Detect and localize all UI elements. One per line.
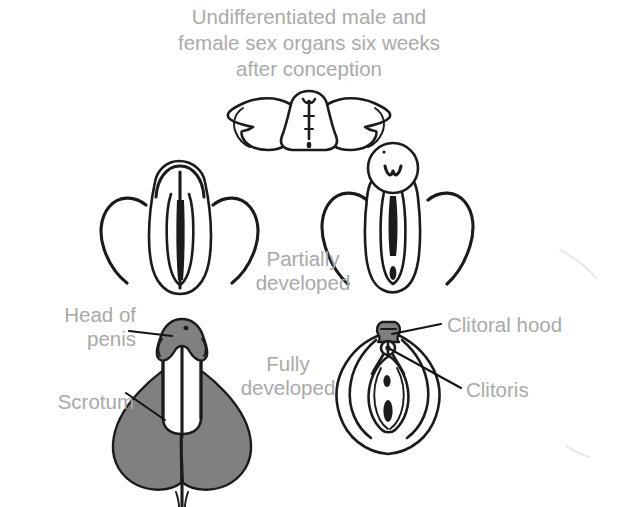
pf-glans-dot — [382, 150, 385, 153]
pm-groove-thick — [176, 200, 184, 280]
figure-partial-male — [101, 161, 258, 294]
stage-full-line-1: Fully — [228, 352, 348, 376]
label-head-of-penis: Head of penis — [24, 303, 136, 351]
urogenital-opening — [307, 142, 312, 148]
label-scrotum: Scrotum — [22, 390, 134, 414]
stage-label-partially-developed: Partially developed — [243, 247, 363, 295]
clitoral-hood — [377, 322, 400, 342]
pf-swelling-right — [428, 193, 473, 284]
title-line-2: female sex organs six weeks — [0, 30, 618, 56]
stage-partial-line-2: developed — [243, 271, 363, 295]
pm-swelling-left — [101, 198, 146, 283]
perineal-raphe-flare-right — [185, 492, 188, 507]
stage-label-fully-developed: Fully developed — [228, 352, 348, 400]
title-line-3: after conception — [0, 56, 618, 82]
urethral-meatus — [183, 326, 188, 330]
label-clitoris: Clitoris — [466, 378, 529, 402]
pf-urogenital-groove — [389, 196, 398, 256]
urethral-opening — [383, 375, 390, 387]
stage-partial-line-1: Partially — [243, 247, 363, 271]
pf-glans-clitoris — [368, 143, 418, 193]
perineal-raphe-flare-left — [176, 492, 179, 507]
figure-undifferentiated — [228, 91, 390, 150]
label-clitoral-hood: Clitoral hood — [447, 313, 562, 337]
label-head-of-penis-line-1: Head of — [24, 303, 136, 327]
figure-full-female — [337, 322, 440, 454]
title-line-1: Undifferentiated male and — [0, 4, 618, 30]
vaginal-opening — [383, 400, 392, 422]
stage-full-line-2: developed — [228, 376, 348, 400]
page-title: Undifferentiated male and female sex org… — [0, 4, 618, 82]
label-head-of-penis-line-2: penis — [24, 327, 136, 351]
pf-lower-opening — [390, 266, 397, 280]
anatomical-diagram: .ink { fill: none; stroke: #1b1b1b; stro… — [0, 0, 618, 507]
